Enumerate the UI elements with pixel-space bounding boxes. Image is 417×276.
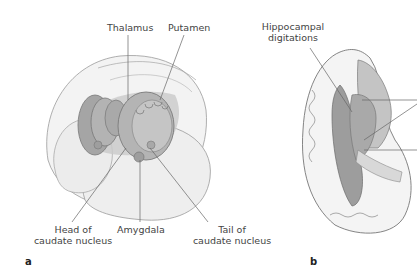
label-thalamus: Thalamus — [107, 22, 153, 33]
label-tail-caudate-line1: Tail of — [186, 224, 278, 235]
label-tail-caudate-line2: caudate nucleus — [186, 235, 278, 246]
label-hippocampal-digitations: Hippocampal digitations — [258, 21, 328, 43]
label-hippocampal-line1: Hippocampal — [258, 21, 328, 32]
panel-a-brain-drawing — [47, 55, 211, 220]
label-head-caudate: Head of caudate nucleus — [24, 224, 122, 246]
label-putamen: Putamen — [168, 22, 210, 33]
panel-letter-b: b — [310, 256, 317, 267]
label-tail-caudate: Tail of caudate nucleus — [186, 224, 278, 246]
panel-letter-a: a — [25, 256, 32, 267]
label-hippocampal-line2: digitations — [258, 32, 328, 43]
label-amygdala: Amygdala — [117, 224, 165, 235]
label-head-caudate-line2: caudate nucleus — [24, 235, 122, 246]
label-head-caudate-line1: Head of — [24, 224, 122, 235]
panel-b-brain-drawing — [302, 50, 411, 234]
